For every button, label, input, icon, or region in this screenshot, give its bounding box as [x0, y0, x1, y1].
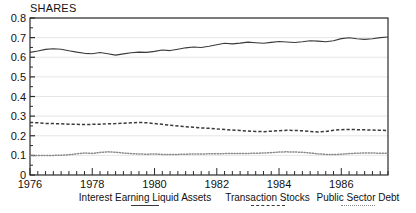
ytick-label-5: 0.3 [11, 110, 26, 122]
ytick-label-2: 0.6 [11, 51, 26, 63]
ytick-label-1: 0.7 [11, 32, 26, 44]
series-line-1 [30, 122, 388, 132]
ytick-label-4: 0.4 [11, 91, 26, 103]
xtick-label-1: 1978 [80, 178, 104, 190]
ytick-label-0: 0.8 [11, 12, 26, 24]
xtick-label-0: 1976 [18, 178, 42, 190]
xtick-label-5: 1986 [329, 178, 353, 190]
ytick-label-3: 0.5 [11, 71, 26, 83]
legend-item-public-sector-debt: Public Sector Debt [300, 192, 416, 211]
legend-swatch-dotted [300, 205, 416, 211]
xtick-label-3: 1982 [205, 178, 229, 190]
chart-legend: Interest Earning Liquid Assets Transacti… [0, 192, 416, 213]
series-line-0 [30, 37, 388, 55]
chart-container: SHARES 0.80.70.60.50.40.30.20.1019761978… [0, 0, 416, 213]
xtick-label-2: 1980 [142, 178, 166, 190]
chart-plot-area: 0.80.70.60.50.40.30.20.10197619781980198… [0, 0, 416, 213]
xtick-label-4: 1984 [267, 178, 291, 190]
legend-label-2: Public Sector Debt [300, 192, 416, 203]
ytick-label-6: 0.2 [11, 130, 26, 142]
ytick-label-7: 0.1 [11, 149, 26, 161]
